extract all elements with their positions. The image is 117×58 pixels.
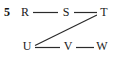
graph-node-w: W: [95, 40, 109, 52]
graph-figure: 5 R S T U V W: [0, 0, 117, 58]
graph-node-t: T: [97, 6, 111, 18]
graph-node-s: S: [59, 6, 73, 18]
graph-node-r: R: [18, 6, 32, 18]
figure-number: 5: [4, 6, 10, 18]
graph-node-u: U: [20, 40, 34, 52]
graph-node-v: V: [61, 40, 75, 52]
